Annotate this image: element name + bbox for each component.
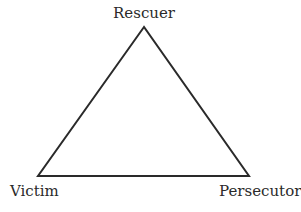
node-label-rescuer: Rescuer <box>113 6 175 21</box>
node-label-victim: Victim <box>10 184 59 199</box>
node-label-persecutor: Persecutor <box>219 184 301 199</box>
triangle-shape <box>0 0 301 212</box>
drama-triangle-diagram: Rescuer Victim Persecutor <box>0 0 301 212</box>
